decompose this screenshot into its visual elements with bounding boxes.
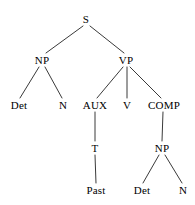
syntax-tree-diagram: SNPVPDetNAUXVCOMPTNPPastDetN bbox=[0, 0, 195, 205]
tree-node-v: V bbox=[123, 100, 131, 111]
tree-edge-s-vp bbox=[90, 26, 124, 53]
tree-node-comp: COMP bbox=[148, 100, 180, 111]
tree-edge-comp-np2 bbox=[162, 112, 163, 141]
tree-node-np1: NP bbox=[35, 55, 49, 66]
tree-edge-np2-det2 bbox=[143, 155, 159, 183]
tree-edge-np1-n1 bbox=[45, 67, 62, 98]
tree-node-n2: N bbox=[179, 185, 187, 196]
tree-node-s: S bbox=[83, 14, 89, 25]
tree-node-t: T bbox=[92, 143, 99, 154]
tree-edge-vp-comp bbox=[130, 67, 161, 98]
tree-node-past: Past bbox=[86, 185, 105, 196]
tree-node-det1: Det bbox=[11, 100, 27, 111]
tree-edge-s-np1 bbox=[46, 26, 83, 53]
tree-node-np2: NP bbox=[155, 143, 169, 154]
tree-node-aux: AUX bbox=[83, 100, 107, 111]
tree-node-vp: VP bbox=[119, 55, 133, 66]
tree-edge-vp-aux bbox=[97, 67, 123, 98]
tree-edge-np1-det1 bbox=[20, 67, 39, 98]
tree-edge-t-past bbox=[95, 155, 96, 183]
tree-edge-np2-n2 bbox=[165, 155, 182, 183]
tree-node-det2: Det bbox=[134, 185, 150, 196]
tree-node-n1: N bbox=[59, 100, 67, 111]
